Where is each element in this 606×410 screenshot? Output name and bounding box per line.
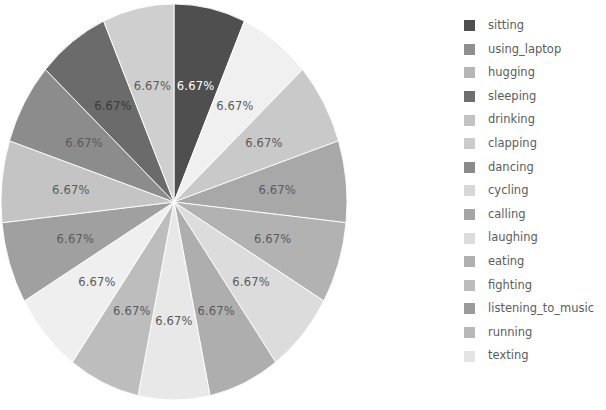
pie-slice-value-label: 6.67% bbox=[258, 183, 296, 197]
pie-plot-area: 6.67%6.67%6.67%6.67%6.67%6.67%6.67%6.67%… bbox=[0, 2, 348, 406]
legend-item[interactable]: clapping bbox=[464, 132, 604, 156]
legend-item-label: listening_to_music bbox=[488, 303, 594, 315]
legend-item[interactable]: listening_to_music bbox=[464, 297, 604, 321]
pie-slices-group bbox=[1, 4, 347, 400]
legend-item[interactable]: eating bbox=[464, 250, 604, 274]
legend-item-label: hugging bbox=[488, 67, 535, 79]
legend-color-swatch-icon bbox=[464, 91, 475, 102]
legend-item[interactable]: hugging bbox=[464, 61, 604, 85]
legend-item[interactable]: fighting bbox=[464, 274, 604, 298]
legend-item[interactable]: texting bbox=[464, 344, 604, 368]
legend-item[interactable]: cycling bbox=[464, 179, 604, 203]
legend-item[interactable]: laughing bbox=[464, 226, 604, 250]
legend-item[interactable]: dancing bbox=[464, 156, 604, 180]
pie-slice-value-label: 6.67% bbox=[216, 99, 254, 113]
legend-item-label: dancing bbox=[488, 162, 534, 174]
legend-item-label: laughing bbox=[488, 232, 538, 244]
pie-svg: 6.67%6.67%6.67%6.67%6.67%6.67%6.67%6.67%… bbox=[0, 2, 348, 406]
legend-item-label: cycling bbox=[488, 185, 528, 197]
legend-item[interactable]: sitting bbox=[464, 14, 604, 38]
legend-item[interactable]: running bbox=[464, 321, 604, 345]
legend-color-swatch-icon bbox=[464, 20, 475, 31]
chart-legend: sittingusing_laptophuggingsleepingdrinki… bbox=[464, 14, 604, 368]
legend-color-swatch-icon bbox=[464, 185, 475, 196]
pie-slice-value-label: 6.67% bbox=[134, 79, 172, 93]
legend-item-label: using_laptop bbox=[488, 44, 561, 56]
legend-color-swatch-icon bbox=[464, 138, 475, 149]
legend-item-label: eating bbox=[488, 256, 524, 268]
legend-item[interactable]: using_laptop bbox=[464, 38, 604, 62]
legend-color-swatch-icon bbox=[464, 303, 475, 314]
legend-item-label: drinking bbox=[488, 114, 535, 126]
legend-color-swatch-icon bbox=[464, 327, 475, 338]
legend-color-swatch-icon bbox=[464, 351, 475, 362]
legend-item-label: clapping bbox=[488, 138, 537, 150]
legend-item-label: sleeping bbox=[488, 91, 536, 103]
pie-slice-value-label: 6.67% bbox=[245, 136, 283, 150]
legend-color-swatch-icon bbox=[464, 44, 475, 55]
legend-item-label: fighting bbox=[488, 280, 532, 292]
legend-color-swatch-icon bbox=[464, 67, 475, 78]
legend-item[interactable]: sleeping bbox=[464, 85, 604, 109]
legend-item-label: texting bbox=[488, 350, 528, 362]
legend-item-label: running bbox=[488, 327, 532, 339]
pie-slice-value-label: 6.67% bbox=[113, 304, 151, 318]
pie-chart-figure: 6.67%6.67%6.67%6.67%6.67%6.67%6.67%6.67%… bbox=[0, 0, 606, 410]
legend-color-swatch-icon bbox=[464, 233, 475, 244]
pie-slice-value-label: 6.67% bbox=[78, 275, 116, 289]
legend-color-swatch-icon bbox=[464, 115, 475, 126]
pie-slice-value-label: 6.67% bbox=[177, 79, 215, 93]
pie-slice-value-label: 6.67% bbox=[94, 99, 132, 113]
pie-slice-value-label: 6.67% bbox=[65, 136, 103, 150]
pie-slice-value-label: 6.67% bbox=[155, 314, 193, 328]
legend-item-label: sitting bbox=[488, 20, 524, 32]
pie-slice-value-label: 6.67% bbox=[197, 304, 235, 318]
legend-color-swatch-icon bbox=[464, 209, 475, 220]
legend-color-swatch-icon bbox=[464, 280, 475, 291]
legend-item[interactable]: drinking bbox=[464, 108, 604, 132]
legend-color-swatch-icon bbox=[464, 162, 475, 173]
legend-color-swatch-icon bbox=[464, 256, 475, 267]
pie-slice-value-label: 6.67% bbox=[52, 183, 90, 197]
pie-slice-value-label: 6.67% bbox=[232, 275, 270, 289]
legend-item[interactable]: calling bbox=[464, 203, 604, 227]
legend-item-label: calling bbox=[488, 209, 526, 221]
pie-slice-value-label: 6.67% bbox=[57, 232, 95, 246]
pie-slice-value-label: 6.67% bbox=[254, 232, 292, 246]
